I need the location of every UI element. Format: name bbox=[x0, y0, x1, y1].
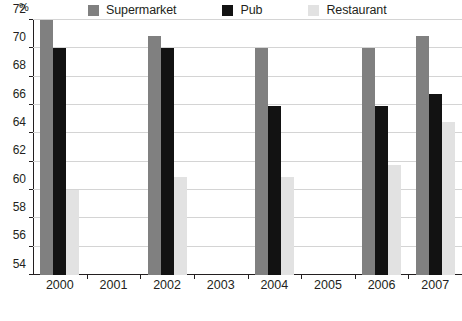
x-axis-label: 2007 bbox=[421, 279, 449, 292]
y-axis-tick bbox=[29, 76, 33, 77]
x-axis-label: 2002 bbox=[153, 279, 181, 292]
y-axis-tick bbox=[29, 47, 33, 48]
legend-item: Pub bbox=[222, 4, 262, 17]
y-axis-tick-label: 60 bbox=[13, 173, 26, 185]
bar bbox=[442, 122, 455, 275]
legend-swatch-icon bbox=[308, 5, 319, 16]
y-axis-tick bbox=[29, 189, 33, 190]
legend-item-label: Supermarket bbox=[106, 4, 176, 17]
y-axis-tick bbox=[29, 19, 33, 20]
x-axis-tick bbox=[194, 275, 195, 279]
x-axis-label: 2003 bbox=[207, 279, 235, 292]
y-axis-tick-label: 66 bbox=[13, 88, 26, 100]
x-axis-tick bbox=[248, 275, 249, 279]
y-axis-tick-label: 58 bbox=[13, 201, 26, 213]
x-axis-label: 2005 bbox=[314, 279, 342, 292]
x-axis-label: 2006 bbox=[368, 279, 396, 292]
legend-item-label: Restaurant bbox=[326, 4, 386, 17]
y-axis-tick bbox=[29, 104, 33, 105]
x-axis-tick bbox=[140, 275, 141, 279]
x-axis-tick bbox=[301, 275, 302, 279]
y-axis-line bbox=[33, 20, 34, 275]
legend-item-label: Pub bbox=[240, 4, 262, 17]
y-axis-tick bbox=[29, 246, 33, 247]
x-axis-label: 2000 bbox=[46, 279, 74, 292]
y-axis-tick bbox=[29, 274, 33, 275]
bar-chart: % SupermarketPubRestaurant 7270686664626… bbox=[0, 0, 462, 321]
legend-item: Supermarket bbox=[88, 4, 176, 17]
y-axis-tick bbox=[29, 161, 33, 162]
bar bbox=[281, 177, 294, 275]
y-axis-tick bbox=[29, 217, 33, 218]
y-axis-tick-label: 62 bbox=[13, 144, 26, 156]
bar bbox=[375, 106, 388, 275]
x-axis-tick bbox=[355, 275, 356, 279]
bar-group bbox=[148, 20, 187, 275]
y-axis-tick bbox=[29, 132, 33, 133]
bar-group bbox=[40, 20, 79, 275]
legend-swatch-icon bbox=[222, 5, 233, 16]
chart-legend: SupermarketPubRestaurant bbox=[88, 1, 433, 19]
x-axis-tick bbox=[408, 275, 409, 279]
y-axis-tick-label: 54 bbox=[13, 258, 26, 270]
bar-group bbox=[255, 20, 294, 275]
x-axis-label: 2004 bbox=[260, 279, 288, 292]
bar bbox=[255, 48, 268, 275]
bar bbox=[388, 165, 401, 276]
bar bbox=[53, 48, 66, 275]
bar bbox=[429, 94, 442, 275]
y-axis-tick-label: 68 bbox=[13, 59, 26, 71]
bar bbox=[66, 190, 79, 275]
y-axis-tick-label: 72 bbox=[13, 3, 26, 15]
x-axis-tick bbox=[87, 275, 88, 279]
legend-swatch-icon bbox=[88, 5, 99, 16]
legend-item: Restaurant bbox=[308, 4, 386, 17]
x-axis-label: 2001 bbox=[100, 279, 128, 292]
bar bbox=[174, 177, 187, 275]
y-axis-tick-label: 70 bbox=[13, 31, 26, 43]
bar bbox=[161, 48, 174, 275]
bar bbox=[416, 36, 429, 275]
plot-area: 72706866646260585654 bbox=[33, 20, 462, 275]
bar-group bbox=[416, 20, 455, 275]
y-axis-tick-label: 56 bbox=[13, 229, 26, 241]
y-axis-tick-label: 64 bbox=[13, 116, 26, 128]
bar bbox=[40, 20, 53, 275]
bar-group bbox=[362, 20, 401, 275]
bar bbox=[268, 106, 281, 275]
bar bbox=[148, 36, 161, 275]
bar bbox=[362, 48, 375, 275]
